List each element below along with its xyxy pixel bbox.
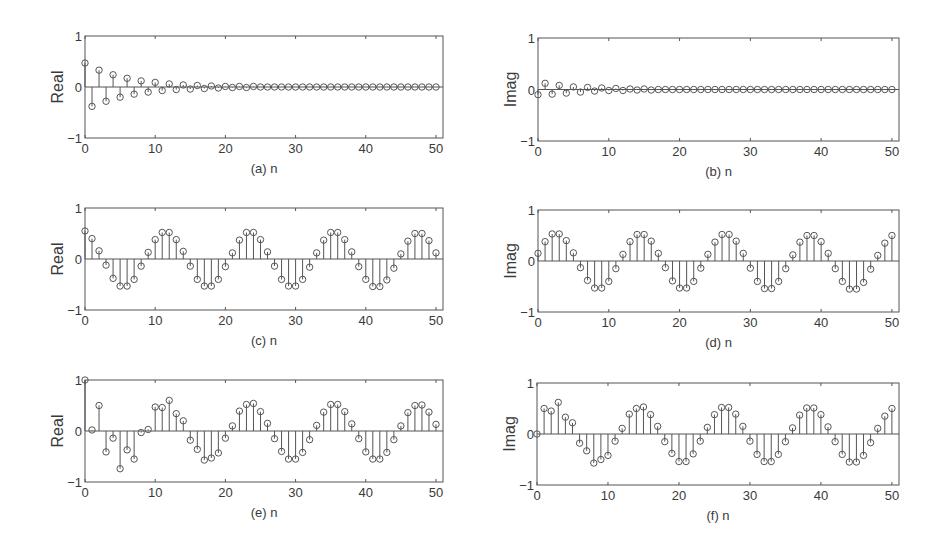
y-tick-label: 0 <box>527 427 534 442</box>
x-tick-label: 30 <box>743 315 757 330</box>
y-axis-label: Real <box>49 71 66 104</box>
y-axis-label: Real <box>49 243 66 276</box>
stem-marker <box>89 427 95 433</box>
y-tick-label: 1 <box>75 29 82 44</box>
x-tick-label: 10 <box>601 488 615 503</box>
x-tick-label: 50 <box>429 313 443 328</box>
x-tick-label: 10 <box>148 141 162 156</box>
stem-marker <box>215 85 221 91</box>
subplot-caption: (f) n <box>706 508 729 523</box>
y-tick-label: 0 <box>75 252 82 267</box>
stem-plot-figure: 01020304050−101Real(a) n01020304050−101I… <box>0 0 944 545</box>
x-tick-label: 40 <box>814 144 828 159</box>
y-tick-label: −1 <box>519 478 534 493</box>
y-tick-label: 1 <box>75 373 82 388</box>
x-tick-label: 20 <box>672 488 686 503</box>
x-tick-label: 40 <box>814 488 828 503</box>
x-tick-label: 10 <box>148 485 162 500</box>
y-tick-label: 1 <box>75 201 82 216</box>
x-tick-label: 10 <box>602 315 616 330</box>
x-tick-label: 50 <box>885 488 899 503</box>
y-tick-label: −1 <box>520 305 535 320</box>
subplot-e: 01020304050−101Real(e) n <box>49 373 443 520</box>
y-tick-label: 0 <box>528 83 535 98</box>
y-tick-label: 0 <box>75 80 82 95</box>
x-tick-label: 50 <box>885 144 899 159</box>
y-tick-label: 1 <box>527 376 534 391</box>
x-tick-label: 0 <box>81 141 88 156</box>
stem-marker <box>229 84 235 90</box>
y-tick-label: −1 <box>67 475 82 490</box>
y-tick-label: −1 <box>67 303 82 318</box>
x-tick-label: 20 <box>218 141 232 156</box>
x-tick-label: 0 <box>534 144 541 159</box>
x-tick-label: 40 <box>359 141 373 156</box>
subplot-caption: (b) n <box>705 164 732 179</box>
x-tick-label: 50 <box>885 315 899 330</box>
y-tick-label: −1 <box>520 134 535 149</box>
y-axis-label: Imag <box>502 243 519 279</box>
x-tick-label: 30 <box>288 485 302 500</box>
x-tick-label: 0 <box>533 488 540 503</box>
y-tick-label: 0 <box>75 424 82 439</box>
x-tick-label: 30 <box>288 313 302 328</box>
y-axis-label: Real <box>49 415 66 448</box>
x-tick-label: 20 <box>672 315 686 330</box>
subplot-f: 01020304050−101Imag(f) n <box>501 376 899 523</box>
x-tick-label: 10 <box>602 144 616 159</box>
y-axis-label: Imag <box>501 416 518 452</box>
subplot-b: 01020304050−101Imag(b) n <box>502 31 899 179</box>
x-tick-label: 30 <box>743 488 757 503</box>
x-tick-label: 50 <box>429 485 443 500</box>
y-tick-label: 1 <box>528 31 535 46</box>
y-axis-label: Imag <box>502 72 519 108</box>
x-tick-label: 20 <box>672 144 686 159</box>
x-tick-label: 20 <box>218 313 232 328</box>
x-tick-label: 0 <box>81 485 88 500</box>
stem-marker <box>145 426 151 432</box>
x-tick-label: 50 <box>429 141 443 156</box>
x-tick-label: 40 <box>814 315 828 330</box>
subplot-d: 01020304050−101Imag(d) n <box>502 203 899 350</box>
y-tick-label: 0 <box>528 254 535 269</box>
x-tick-label: 0 <box>81 313 88 328</box>
x-tick-label: 20 <box>218 485 232 500</box>
x-tick-label: 0 <box>534 315 541 330</box>
y-tick-label: −1 <box>67 131 82 146</box>
x-tick-label: 10 <box>148 313 162 328</box>
x-tick-label: 40 <box>359 313 373 328</box>
subplot-a: 01020304050−101Real(a) n <box>49 29 443 176</box>
x-tick-label: 30 <box>743 144 757 159</box>
subplot-caption: (c) n <box>251 333 277 348</box>
subplot-caption: (a) n <box>251 161 278 176</box>
y-tick-label: 1 <box>528 203 535 218</box>
stem-marker <box>243 84 249 90</box>
x-tick-label: 30 <box>288 141 302 156</box>
subplot-caption: (d) n <box>705 335 732 350</box>
subplot-caption: (e) n <box>251 505 278 520</box>
subplot-c: 01020304050−101Real(c) n <box>49 201 443 348</box>
x-tick-label: 40 <box>359 485 373 500</box>
